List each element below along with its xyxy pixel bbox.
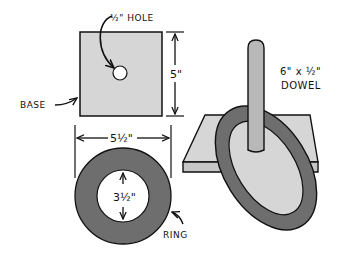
ring-arrow-icon bbox=[172, 212, 183, 224]
ring-toss-diagram: ½" HOLE BASE 5" 5½" 3½" RING bbox=[0, 0, 354, 255]
base-height-dimension: 5" bbox=[166, 32, 184, 116]
ring-top-view: 5½" 3½" bbox=[75, 125, 171, 244]
hole-label: ½" HOLE bbox=[110, 13, 154, 23]
ring-outer-label: 5½" bbox=[110, 132, 133, 145]
hole-icon bbox=[113, 66, 127, 80]
base-height-label: 5" bbox=[170, 68, 182, 81]
dowel-label: DOWEL bbox=[281, 80, 321, 91]
dowel bbox=[248, 40, 264, 152]
base-arrow-icon bbox=[55, 98, 77, 105]
base-label: BASE bbox=[20, 100, 46, 110]
ring-label: RING bbox=[163, 230, 188, 240]
ring-inner-label: 3½" bbox=[113, 191, 136, 204]
dowel-size-label: 6" x ½" bbox=[280, 66, 321, 77]
base-top-view bbox=[80, 32, 162, 116]
